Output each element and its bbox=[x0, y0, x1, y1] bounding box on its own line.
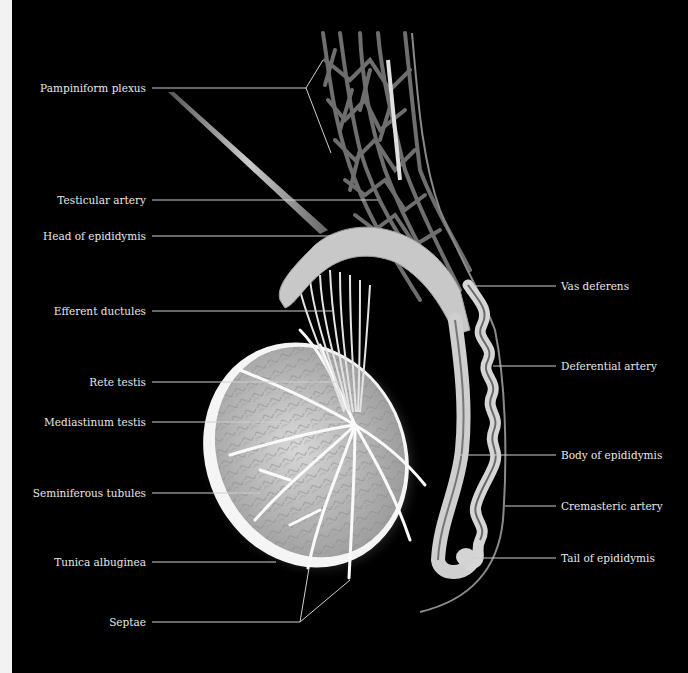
label-pampiniform-plexus: Pampiniform plexus bbox=[40, 82, 146, 94]
label-rete-testis: Rete testis bbox=[89, 376, 146, 388]
label-head-of-epididymis: Head of epididymis bbox=[43, 230, 146, 242]
anatomy-diagram bbox=[12, 0, 688, 673]
label-vas-deferens: Vas deferens bbox=[561, 280, 629, 292]
anatomy-illustration bbox=[12, 0, 688, 673]
label-efferent-ductules: Efferent ductules bbox=[54, 305, 146, 317]
probe-rod-art bbox=[168, 92, 328, 234]
label-tail-of-epididymis: Tail of epididymis bbox=[561, 552, 655, 564]
label-deferential-artery: Deferential artery bbox=[561, 360, 657, 372]
left-margin-strip bbox=[0, 0, 12, 673]
label-septae: Septae bbox=[109, 616, 146, 628]
body-of-epididymis-art bbox=[438, 320, 470, 572]
label-testicular-artery: Testicular artery bbox=[57, 194, 146, 206]
label-mediastinum-testis: Mediastinum testis bbox=[44, 416, 146, 428]
label-body-of-epididymis: Body of epididymis bbox=[561, 449, 662, 461]
tail-of-epididymis-art bbox=[456, 548, 476, 566]
label-cremasteric-artery: Cremasteric artery bbox=[561, 500, 663, 512]
label-seminiferous-tubules: Seminiferous tubules bbox=[33, 487, 146, 499]
seminiferous-tubules-art bbox=[181, 315, 439, 589]
label-tunica-albuginea: Tunica albuginea bbox=[54, 556, 146, 568]
